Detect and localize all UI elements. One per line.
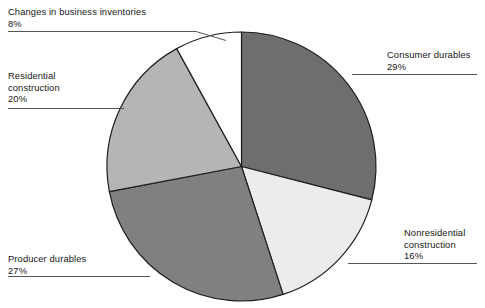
label-text: Changes in business inventories xyxy=(8,6,146,17)
label-text-line1: Residential xyxy=(8,70,55,81)
label-producer-durables: Producer durables 27% xyxy=(8,253,86,276)
label-text-line2: construction xyxy=(8,82,60,93)
label-percent: 8% xyxy=(8,18,146,30)
label-percent: 20% xyxy=(8,93,60,105)
label-consumer-durables: Consumer durables 29% xyxy=(387,49,471,72)
label-residential-construction: Residential construction 20% xyxy=(8,70,60,105)
label-text: Producer durables xyxy=(8,253,86,264)
label-text: Consumer durables xyxy=(387,49,471,60)
label-percent: 27% xyxy=(8,265,86,277)
label-nonresidential-construction: Nonresidential construction 16% xyxy=(404,227,465,262)
label-text-line2: construction xyxy=(404,239,456,250)
label-changes-in-business-inventories: Changes in business inventories 8% xyxy=(8,6,146,29)
label-percent: 16% xyxy=(404,250,465,262)
pie-chart: Changes in business inventories 8% Resid… xyxy=(0,0,485,308)
label-percent: 29% xyxy=(387,61,471,73)
label-text-line1: Nonresidential xyxy=(404,227,465,238)
